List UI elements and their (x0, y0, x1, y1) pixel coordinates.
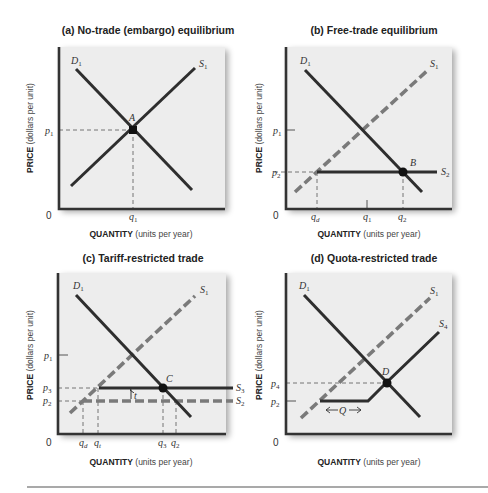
p2-label: p2 (270, 396, 280, 409)
point-c-label: C (166, 373, 173, 384)
x-axis-title: QUANTITY (units per year) (318, 229, 421, 239)
s2-label: S2 (236, 395, 245, 408)
qd-label: qd (79, 437, 88, 450)
y-axis-title: PRICE (dollars per unit) (25, 83, 35, 173)
origin-zero: 0 (46, 210, 52, 221)
quota-q-label: Q (339, 405, 347, 416)
p1-label: p1 (43, 350, 53, 363)
p2-label: p2 (42, 395, 52, 408)
p2-label: p2 (271, 167, 281, 180)
origin-zero: 0 (46, 437, 52, 448)
equilibrium-point-c (159, 384, 168, 393)
equilibrium-point-a (129, 126, 137, 134)
x-axis-title: QUANTITY (units per year) (318, 457, 421, 467)
equilibrium-point-d (383, 379, 392, 388)
qt-label: qt (94, 437, 102, 450)
y-axis-title: PRICE (dollars per unit) (25, 310, 35, 400)
point-b-label: B (410, 157, 416, 168)
x-axis-title: QUANTITY (units per year) (90, 229, 193, 239)
q1-label: q1 (129, 211, 138, 224)
origin-zero: 0 (273, 210, 279, 221)
plot-area (286, 47, 452, 209)
p1-label: p1 (272, 125, 282, 138)
x-axis-title: QUANTITY (units per year) (90, 457, 193, 467)
equilibrium-point-b (399, 168, 408, 177)
panel-a-title: (a) No-trade (embargo) equilibrium (62, 24, 235, 36)
point-d-label: D (381, 366, 390, 377)
p3-label: p3 (42, 382, 52, 395)
tariff-t-label: t (134, 390, 137, 401)
s3-label: S3 (236, 382, 245, 395)
plot-area (59, 47, 225, 209)
panel-b-title: (b) Free-trade equilibrium (310, 24, 437, 36)
q2-label: q2 (398, 211, 407, 224)
panel-a: (a) No-trade (embargo) equilibrium D1 S1… (25, 24, 234, 239)
origin-zero: 0 (273, 437, 279, 448)
panel-b: (b) Free-trade equilibrium D1 S1 S2 B p1… (254, 24, 452, 239)
point-a-label: A (128, 112, 136, 123)
qd-label: qd (311, 211, 320, 224)
y-axis-title: PRICE (dollars per unit) (254, 83, 264, 173)
q2-label: q2 (171, 437, 180, 450)
q3-label: q3 (158, 437, 167, 450)
q1-label: q1 (363, 211, 372, 224)
panel-c-title: (c) Tariff-restricted trade (82, 252, 203, 264)
y-axis-title: PRICE (dollars per unit) (254, 310, 264, 400)
p1-label: p1 (44, 125, 54, 138)
panel-d: (d) Quota-restricted trade Q D1 S1 S4 D … (254, 252, 452, 467)
p4-label: p4 (270, 378, 280, 391)
panel-c: (c) Tariff-restricted trade t D1 S1 S3 S… (25, 252, 245, 467)
panel-d-title: (d) Quota-restricted trade (311, 252, 438, 264)
